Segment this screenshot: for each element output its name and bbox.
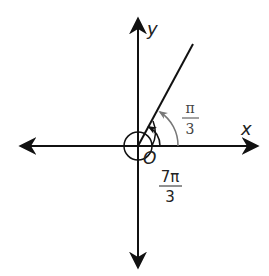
- x-axis-label: x: [240, 118, 252, 139]
- angle-small-numerator: π: [185, 100, 194, 116]
- origin-label: O: [143, 148, 156, 168]
- y-axis-label: y: [146, 18, 158, 39]
- angle-small-denominator: 3: [186, 121, 195, 137]
- angle-arc-pi-over-3: [160, 112, 178, 146]
- angle-large-denominator: 3: [165, 188, 175, 206]
- angle-diagram: y x O π 3 7π 3: [0, 0, 269, 276]
- angle-large-numerator: 7π: [161, 168, 180, 186]
